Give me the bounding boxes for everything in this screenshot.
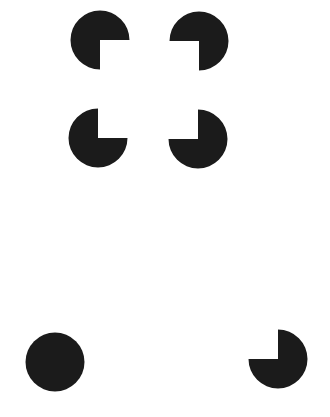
pacman-top-right <box>170 12 229 71</box>
full-disc <box>26 333 85 392</box>
kanizsa-figure <box>0 0 330 417</box>
pacman-top-left <box>71 11 130 70</box>
figure-canvas <box>0 0 330 417</box>
pacman-bottom-left <box>69 109 128 168</box>
pacman-lone <box>249 330 308 389</box>
pacman-bottom-right <box>169 110 228 169</box>
